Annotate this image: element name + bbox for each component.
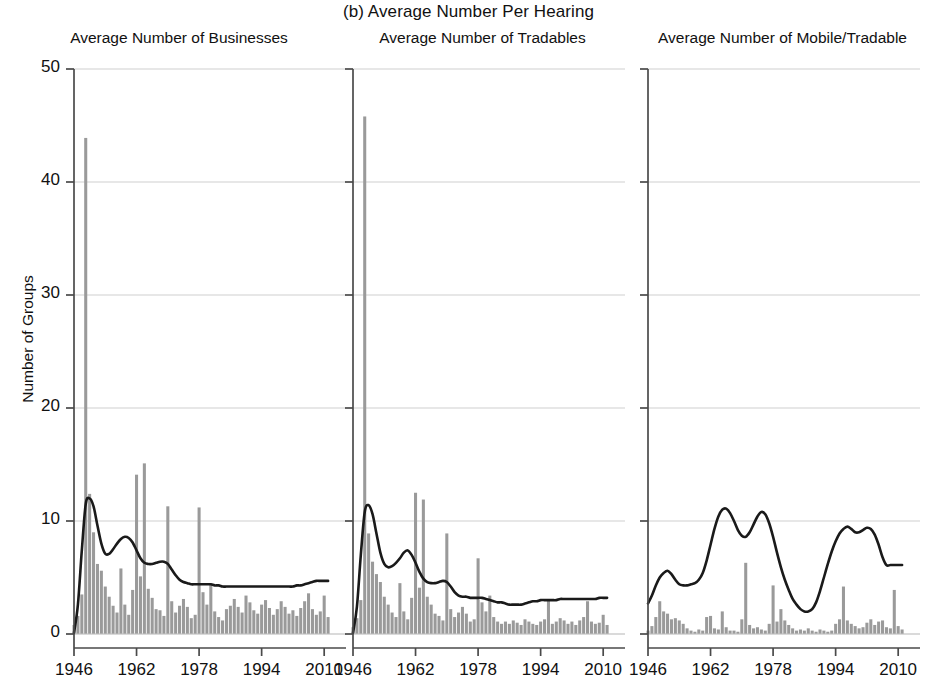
bar <box>586 601 589 634</box>
bar <box>701 631 704 634</box>
bar <box>897 626 900 634</box>
bar <box>590 622 593 634</box>
bar <box>877 622 880 634</box>
bar <box>387 605 390 634</box>
x-tick-label-p1-1962: 1962 <box>386 660 446 680</box>
bar <box>854 626 857 634</box>
bar <box>139 576 142 634</box>
bar <box>480 602 483 634</box>
bar <box>574 625 577 634</box>
bar <box>233 599 236 634</box>
bar <box>465 614 468 634</box>
bar <box>410 598 413 634</box>
bar <box>508 624 511 634</box>
bar <box>375 574 378 634</box>
bar <box>729 631 732 634</box>
bar <box>799 629 802 634</box>
x-tick-label-p1-1978: 1978 <box>448 660 508 680</box>
x-tick-label-p2-1962: 1962 <box>681 660 741 680</box>
bar <box>689 631 692 634</box>
bar <box>379 582 382 634</box>
x-tick-label-p0-1978: 1978 <box>169 660 229 680</box>
bar <box>260 605 263 634</box>
bar <box>842 587 845 634</box>
bar <box>295 616 298 634</box>
bar <box>686 628 689 634</box>
bar <box>363 116 366 634</box>
bar <box>284 607 287 634</box>
bar <box>453 617 456 634</box>
bar <box>96 564 99 634</box>
bar <box>151 598 154 634</box>
bar <box>108 597 111 634</box>
y-tick-label-50: 50 <box>10 58 60 75</box>
bar <box>570 622 573 634</box>
bar <box>775 622 778 634</box>
bar <box>516 623 519 634</box>
bar <box>131 590 134 634</box>
bar <box>748 625 751 634</box>
bar <box>319 611 322 634</box>
bar <box>359 600 362 634</box>
bar <box>209 583 212 634</box>
bar <box>582 617 585 634</box>
bar <box>756 627 759 634</box>
bar <box>578 620 581 634</box>
bar <box>705 617 708 634</box>
bar <box>213 611 216 634</box>
bar <box>811 631 814 634</box>
bar <box>473 619 476 634</box>
bar <box>889 628 892 634</box>
bar <box>367 533 370 634</box>
bar <box>559 618 562 634</box>
bar <box>104 587 107 634</box>
bar <box>795 631 798 634</box>
bar <box>682 624 685 634</box>
bar <box>190 618 193 634</box>
bar <box>527 622 530 634</box>
bar <box>158 610 161 634</box>
bar <box>606 625 609 634</box>
bar <box>127 615 130 634</box>
bar <box>768 624 771 634</box>
bar <box>280 601 283 634</box>
x-tick-label-p2-1946: 1946 <box>618 660 678 680</box>
bar <box>500 624 503 634</box>
bar <box>426 597 429 634</box>
x-tick-label-p0-1946: 1946 <box>44 660 104 680</box>
bar <box>760 629 763 634</box>
x-tick-label-p2-2010: 2010 <box>868 660 928 680</box>
bar <box>303 601 306 634</box>
bar <box>662 611 665 634</box>
trend-line-panel-2 <box>648 508 902 611</box>
bar <box>725 627 728 634</box>
bar <box>803 631 806 634</box>
bar <box>88 494 91 634</box>
bar <box>732 631 735 634</box>
bar <box>543 619 546 634</box>
x-tick-label-p1-1946: 1946 <box>323 660 383 680</box>
bar <box>182 599 185 634</box>
bar <box>155 609 158 634</box>
bar <box>858 628 861 634</box>
bar <box>861 627 864 634</box>
bar <box>555 622 558 634</box>
bar <box>418 588 421 634</box>
bar <box>740 619 743 634</box>
figure-main-title: (b) Average Number Per Hearing <box>0 2 937 22</box>
bar <box>492 617 495 634</box>
bar <box>697 629 700 634</box>
panel-title-tradables: Average Number of Tradables <box>340 29 625 47</box>
bar <box>166 506 169 634</box>
bar <box>717 629 720 634</box>
bar <box>674 618 677 634</box>
bar <box>783 620 786 634</box>
bar <box>594 624 597 634</box>
y-tick-label-20: 20 <box>10 397 60 414</box>
bar <box>764 631 767 634</box>
bar <box>170 601 173 634</box>
bar <box>123 605 126 634</box>
x-tick-label-p0-1994: 1994 <box>232 660 292 680</box>
bar <box>299 608 302 634</box>
bar <box>846 620 849 634</box>
